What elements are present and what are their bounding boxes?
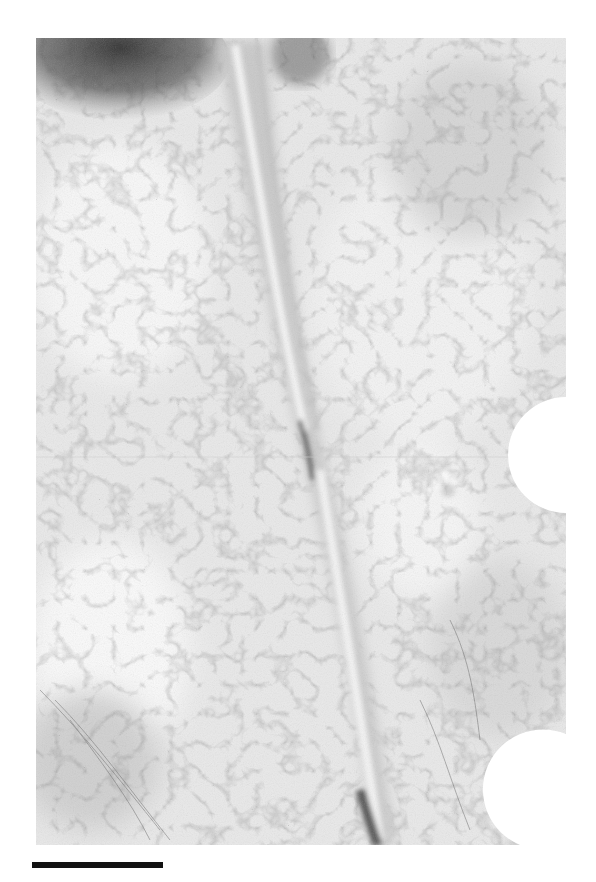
specimen-figure [0,0,596,882]
scale-bar [32,862,163,868]
specimen-photograph [0,0,596,882]
tissue-region [10,0,570,845]
